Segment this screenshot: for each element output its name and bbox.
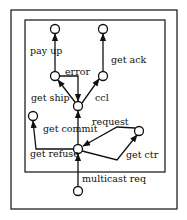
- label-get-commit: get commit: [43, 123, 98, 134]
- label-get-ack: get ack: [111, 54, 147, 65]
- state-node: [99, 25, 108, 34]
- state-node: [135, 127, 144, 136]
- label-error: error: [65, 66, 90, 77]
- state-node: [74, 102, 83, 111]
- label-get-ship: get ship: [31, 92, 70, 103]
- label-request: request: [92, 116, 129, 127]
- state-diagram: pay up get ack error get ship ccl get co…: [0, 0, 187, 220]
- label-multicast-req: multicast req: [82, 173, 146, 184]
- state-node: [51, 25, 60, 34]
- state-node: [51, 72, 60, 81]
- start-node: [74, 187, 83, 196]
- label-pay-up: pay up: [30, 45, 62, 56]
- state-node: [99, 72, 108, 81]
- label-get-refuse: get refuse: [30, 148, 79, 159]
- label-ccl: ccl: [95, 92, 109, 103]
- label-get-ctr: get ctr: [126, 149, 159, 160]
- state-node: [29, 112, 38, 121]
